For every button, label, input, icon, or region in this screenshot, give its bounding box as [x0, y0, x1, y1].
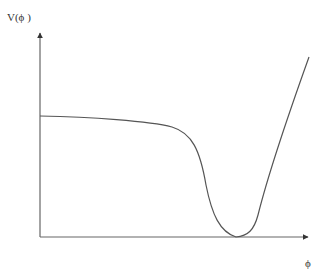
- potential-diagram: [0, 0, 327, 280]
- x-axis-label: ϕ: [305, 258, 311, 269]
- y-axis-label: V(ϕ ): [7, 12, 31, 23]
- potential-curve: [40, 57, 309, 237]
